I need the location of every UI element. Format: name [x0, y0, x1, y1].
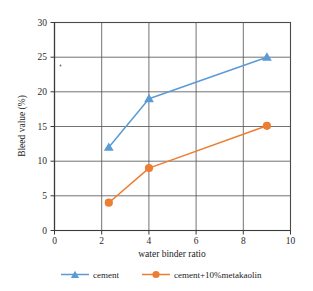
y-tick-label-30: 30 — [38, 18, 48, 28]
legend-cement-label: cement — [93, 270, 119, 280]
y-tick-label-0: 0 — [42, 226, 47, 236]
x-axis-title: water binder ratio — [138, 249, 206, 259]
legend-metakaolin-label: cement+10%metakaolin — [174, 270, 262, 280]
scan-artifact-dot — [60, 65, 62, 67]
x-tick-label-6: 6 — [194, 236, 199, 246]
x-tick-label-4: 4 — [147, 236, 152, 246]
chart-screenshot: 0 5 10 15 20 25 30 0 2 4 6 8 10 water bi… — [0, 0, 313, 291]
x-tick-label-8: 8 — [241, 236, 246, 246]
series-metakaolin-point-3 — [263, 122, 271, 130]
chart-background — [0, 0, 313, 291]
bleed-value-line-chart: 0 5 10 15 20 25 30 0 2 4 6 8 10 water bi… — [0, 0, 313, 291]
legend-metakaolin-circle-icon — [152, 271, 159, 278]
y-tick-label-10: 10 — [38, 156, 48, 166]
y-tick-label-25: 25 — [38, 52, 48, 62]
series-metakaolin-point-2 — [145, 164, 153, 172]
x-tick-label-0: 0 — [52, 236, 57, 246]
series-metakaolin-point-1 — [105, 199, 113, 207]
x-tick-label-2: 2 — [99, 236, 104, 246]
x-tick-label-10: 10 — [286, 236, 296, 246]
y-tick-label-20: 20 — [38, 87, 48, 97]
y-tick-label-5: 5 — [42, 191, 47, 201]
y-tick-label-15: 15 — [38, 122, 48, 132]
y-axis-title: Bleed value (%) — [17, 95, 28, 157]
